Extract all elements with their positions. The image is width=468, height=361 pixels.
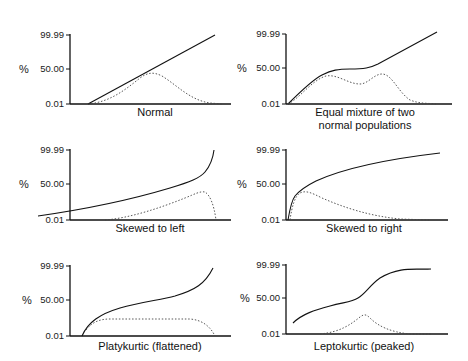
panel-caption: Leptokurtic (peaked) bbox=[314, 340, 414, 352]
tick-label-bottom: 0.01 bbox=[262, 328, 281, 339]
tick-label-top: 99.99 bbox=[256, 259, 280, 270]
tick-label-mid: 50.00 bbox=[40, 63, 64, 74]
frequency-curve bbox=[288, 74, 436, 104]
cumulative-line bbox=[288, 153, 440, 220]
tick-label-mid: 50.00 bbox=[40, 294, 64, 305]
tick-label-top: 99.99 bbox=[256, 144, 280, 155]
panel-caption-line1: Equal mixture of two bbox=[315, 106, 415, 118]
tick-label-mid: 50.00 bbox=[40, 178, 64, 189]
y-axis-label: % bbox=[19, 63, 29, 75]
frequency-curve bbox=[88, 73, 222, 104]
cumulative-line bbox=[288, 32, 437, 104]
panel-skewed-right: 99.99 50.00 0.01 % Skewed to right bbox=[237, 144, 448, 234]
tick-label-top: 99.99 bbox=[40, 29, 64, 40]
y-axis-label: % bbox=[22, 294, 32, 306]
frequency-curve bbox=[86, 319, 215, 336]
tick-label-mid: 50.00 bbox=[256, 178, 280, 189]
panel-caption: Platykurtic (flattened) bbox=[98, 340, 201, 352]
tick-label-bottom: 0.01 bbox=[262, 214, 281, 225]
tick-label-bottom: 0.01 bbox=[262, 98, 281, 109]
panel-caption: Normal bbox=[137, 106, 172, 118]
y-axis-label: % bbox=[237, 178, 247, 190]
panel-equal-mixture: 99.99 50.00 0.01 % Equal mixture of two … bbox=[237, 28, 452, 131]
frequency-curve bbox=[290, 192, 430, 220]
cumulative-line bbox=[293, 269, 431, 323]
tick-label-bottom: 0.01 bbox=[46, 214, 65, 225]
tick-label-mid: 50.00 bbox=[256, 292, 280, 303]
panel-caption-line2: normal populations bbox=[319, 119, 412, 131]
panel-skewed-left: 99.99 50.00 0.01 % Skewed to left bbox=[19, 144, 231, 234]
tick-label-bottom: 0.01 bbox=[46, 330, 65, 341]
tick-label-mid: 50.00 bbox=[256, 62, 280, 73]
panel-platykurtic: 99.99 50.00 0.01 % Platykurtic (flattene… bbox=[22, 260, 231, 352]
panel-caption: Skewed to left bbox=[115, 222, 184, 234]
panel-leptokurtic: 99.99 50.00 0.01 % Leptokurtic (peaked) bbox=[240, 259, 448, 352]
y-axis-label: % bbox=[19, 178, 29, 190]
tick-label-top: 99.99 bbox=[40, 260, 64, 271]
panel-caption: Skewed to right bbox=[326, 222, 402, 234]
tick-label-top: 99.99 bbox=[40, 144, 64, 155]
probability-plots-figure: 99.99 50.00 0.01 % Normal 99.99 50.00 0.… bbox=[0, 0, 468, 361]
cumulative-line bbox=[38, 150, 214, 216]
y-axis-label: % bbox=[237, 62, 247, 74]
frequency-curve bbox=[320, 315, 432, 334]
y-axis-label: % bbox=[240, 292, 250, 304]
tick-label-top: 99.99 bbox=[256, 28, 280, 39]
tick-label-bottom: 0.01 bbox=[46, 98, 65, 109]
cumulative-line bbox=[82, 268, 213, 336]
cumulative-line bbox=[88, 35, 215, 104]
panel-normal: 99.99 50.00 0.01 % Normal bbox=[19, 29, 231, 118]
frequency-curve bbox=[105, 192, 216, 220]
